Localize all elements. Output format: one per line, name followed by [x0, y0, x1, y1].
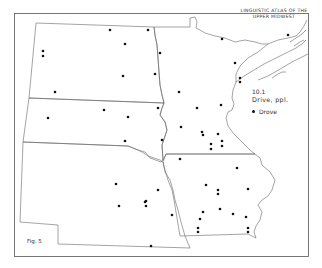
south-dakota-boundary — [23, 98, 167, 162]
map-title: LINGUISTIC ATLAS OF THE UPPER MIDWEST — [238, 8, 310, 20]
response-dot — [42, 55, 45, 58]
north-dakota-boundary — [29, 23, 164, 103]
response-dot — [247, 227, 250, 230]
legend-label: Drove — [259, 108, 277, 115]
response-dot — [287, 34, 290, 37]
response-dot — [115, 183, 118, 186]
response-dot — [161, 139, 164, 142]
response-dot — [103, 109, 106, 112]
response-dot — [178, 91, 181, 94]
response-dot — [247, 231, 250, 234]
map-title-line2: UPPER MIDWEST — [238, 14, 310, 20]
response-dots — [42, 29, 290, 248]
response-dot — [154, 73, 157, 76]
response-dot — [109, 29, 112, 32]
item-code: 10.1 — [252, 88, 265, 95]
legend-item-drove: Drove — [252, 108, 277, 115]
response-dot — [247, 188, 250, 191]
response-dot — [124, 43, 127, 46]
response-dot — [210, 143, 213, 146]
map-frame — [15, 14, 309, 257]
response-dot — [179, 158, 182, 161]
iowa-boundary — [163, 154, 275, 238]
response-dot — [221, 38, 224, 41]
item-heading: Drive, ppl. — [252, 96, 288, 104]
response-dot — [42, 50, 45, 53]
response-dot — [122, 75, 125, 78]
response-dot — [157, 107, 160, 110]
response-dot — [127, 116, 130, 119]
wisconsin-shore — [258, 54, 308, 80]
dot-symbol-icon — [252, 110, 255, 113]
response-dot — [220, 104, 223, 107]
response-dot — [197, 231, 200, 234]
response-dot — [239, 81, 242, 84]
response-dot — [221, 140, 224, 143]
response-dot — [124, 140, 127, 143]
response-dot — [202, 211, 205, 214]
response-dot — [159, 52, 162, 55]
response-dot — [221, 145, 224, 148]
figure-label: Fig. 5 — [27, 238, 42, 244]
response-dot — [234, 62, 237, 65]
wisconsin-bay — [272, 72, 286, 78]
minnesota-boundary — [154, 17, 268, 160]
lake-superior-shore-north — [268, 20, 307, 44]
lake-superior-shore-south — [236, 40, 306, 82]
response-dot — [196, 107, 199, 110]
response-dot — [201, 131, 204, 134]
response-dot — [210, 148, 213, 151]
response-dot — [219, 208, 222, 211]
response-dot — [147, 29, 150, 32]
response-dot — [157, 189, 160, 192]
response-dot — [202, 134, 205, 137]
response-dot — [236, 167, 239, 170]
response-dot — [171, 214, 174, 217]
response-dot — [145, 205, 148, 208]
dialect-map — [0, 0, 322, 268]
response-dot — [232, 213, 235, 216]
response-dot — [217, 133, 220, 136]
state-boundaries — [20, 17, 308, 248]
response-dot — [54, 91, 57, 94]
response-dot — [217, 189, 220, 192]
response-dot — [205, 184, 208, 187]
response-dot — [180, 126, 183, 129]
response-dot — [197, 227, 200, 230]
response-dot — [118, 205, 121, 208]
response-dot — [47, 117, 50, 120]
response-dot — [239, 77, 242, 80]
response-dot — [217, 193, 220, 196]
response-dot — [150, 245, 153, 248]
response-dot — [144, 201, 147, 204]
keweenaw-peninsula — [290, 30, 306, 46]
response-dot — [199, 218, 202, 221]
response-dot — [245, 216, 248, 219]
